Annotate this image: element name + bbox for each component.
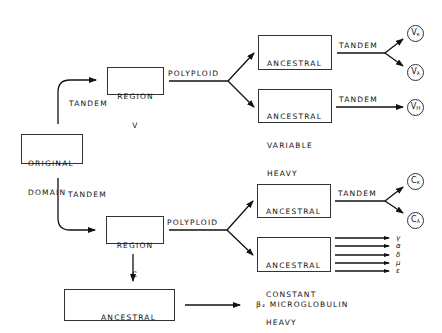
v-kappa-sub: κ (417, 31, 420, 37)
ab2m-line1: ANCESTRAL (71, 313, 168, 323)
region-c-line2: C (109, 270, 161, 280)
c-lambda-node: Cλ (407, 212, 424, 229)
avh-line1: ANCESTRAL (267, 112, 323, 122)
ach-line1: ANCESTRAL (266, 261, 322, 271)
c-kappa-node: Cκ (407, 173, 424, 190)
ach-line3: HEAVY (266, 318, 322, 328)
ach-line2: CONSTANT (266, 290, 322, 300)
heavy-class-epsilon: ε (396, 267, 400, 275)
ancestral-constant-heavy-box: ANCESTRAL CONSTANT HEAVY (257, 237, 331, 272)
polyploid-label-c: POLYPLOID (167, 218, 218, 227)
v-heavy-node: VH (407, 99, 424, 116)
v-lambda-sub: λ (417, 70, 420, 76)
v-heavy-sub: H (416, 105, 420, 111)
ancestral-variable-heavy-box: ANCESTRAL VARIABLE HEAVY (258, 89, 332, 123)
tandem-label-v: TANDEM (69, 99, 108, 108)
c-lambda-sub: λ (417, 218, 420, 224)
tandem-label-vl: TANDEM (339, 41, 378, 50)
avh-line3: HEAVY (267, 169, 323, 179)
acl-line1: ANCESTRAL (266, 207, 322, 217)
ancestral-b2-microglobulin-box: ANCESTRAL β₂ MICROGLOBULIN (64, 289, 175, 321)
region-v-box: REGION V (107, 67, 164, 95)
tandem-label-c: TANDEM (68, 190, 107, 199)
tandem-label-vh: TANDEM (339, 95, 378, 104)
v-lambda-node: Vλ (407, 64, 424, 81)
ancestral-constant-light-box: ANCESTRAL CONSTANT LIGHT (257, 184, 331, 218)
b2-microglobulin-label: β₂ MICROGLOBULIN (256, 300, 349, 309)
region-v-line1: REGION (110, 92, 161, 102)
heavy-class-delta: δ (396, 251, 400, 259)
region-c-line1: REGION (109, 241, 161, 251)
avh-line2: VARIABLE (267, 141, 323, 151)
heavy-class-alpha: α (396, 242, 401, 250)
region-v-line2: V (110, 121, 161, 131)
avl-line1: ANCESTRAL (267, 59, 323, 69)
polyploid-label-v: POLYPLOID (168, 69, 219, 78)
c-kappa-sub: κ (417, 179, 420, 185)
region-c-box: REGION C (106, 216, 164, 244)
tandem-label-cl: TANDEM (338, 189, 377, 198)
v-kappa-node: Vκ (407, 25, 424, 42)
heavy-class-mu: μ (396, 259, 400, 267)
original-domain-line1: ORIGINAL (28, 159, 76, 169)
heavy-class-gamma: γ (396, 234, 400, 242)
original-domain-box: ORIGINAL DOMAIN (21, 134, 83, 164)
ancestral-variable-light-box: ANCESTRAL VARIABLE LIGHT (258, 35, 332, 70)
